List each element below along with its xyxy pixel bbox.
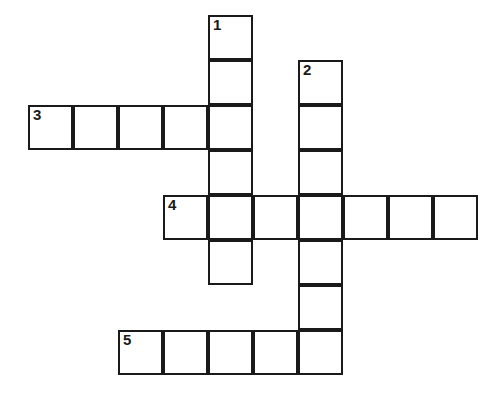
crossword-cell[interactable] bbox=[163, 105, 208, 150]
cell-number-label: 4 bbox=[168, 197, 176, 213]
crossword-cell[interactable] bbox=[208, 150, 253, 195]
crossword-cell[interactable] bbox=[208, 240, 253, 285]
crossword-cell[interactable]: 4 bbox=[163, 195, 208, 240]
crossword-cell[interactable] bbox=[298, 150, 343, 195]
crossword-cell[interactable] bbox=[298, 240, 343, 285]
crossword-cell[interactable] bbox=[163, 330, 208, 375]
cell-number-label: 5 bbox=[123, 332, 131, 348]
cell-number-label: 1 bbox=[213, 17, 221, 33]
crossword-cell[interactable] bbox=[433, 195, 478, 240]
crossword-cell[interactable]: 2 bbox=[298, 60, 343, 105]
crossword-cell[interactable]: 5 bbox=[118, 330, 163, 375]
crossword-cell[interactable]: 1 bbox=[208, 15, 253, 60]
crossword-cell[interactable] bbox=[253, 330, 298, 375]
crossword-cell[interactable] bbox=[298, 330, 343, 375]
crossword-cell[interactable] bbox=[118, 105, 163, 150]
crossword-cell[interactable] bbox=[208, 105, 253, 150]
crossword-cell[interactable] bbox=[388, 195, 433, 240]
crossword-cell[interactable] bbox=[298, 195, 343, 240]
crossword-cell[interactable] bbox=[208, 195, 253, 240]
crossword-cell[interactable] bbox=[208, 330, 253, 375]
crossword-cell[interactable] bbox=[253, 195, 298, 240]
crossword-grid: 12345 bbox=[0, 0, 500, 407]
cell-number-label: 2 bbox=[303, 62, 311, 78]
crossword-cell[interactable] bbox=[298, 285, 343, 330]
cell-number-label: 3 bbox=[33, 107, 41, 123]
crossword-cell[interactable] bbox=[73, 105, 118, 150]
crossword-cell[interactable] bbox=[208, 60, 253, 105]
crossword-cell[interactable] bbox=[343, 195, 388, 240]
crossword-cell[interactable]: 3 bbox=[28, 105, 73, 150]
crossword-cell[interactable] bbox=[298, 105, 343, 150]
